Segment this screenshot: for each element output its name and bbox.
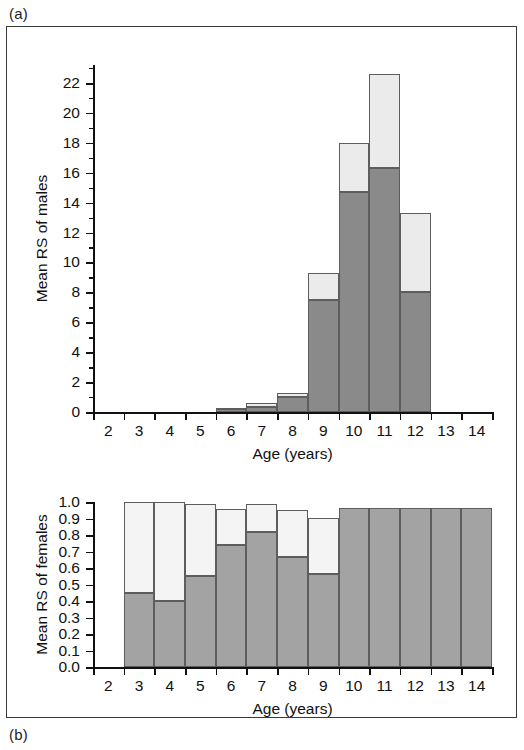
y-axis-line (93, 502, 95, 667)
x-axis-tick-label: 9 (307, 678, 339, 694)
x-axis-tick-label: 12 (399, 678, 431, 694)
x-axis-tick (339, 667, 341, 675)
y-axis-tick (86, 618, 93, 620)
x-axis-tick-label: 7 (246, 678, 278, 694)
bar-segment (216, 545, 247, 667)
x-axis-tick (400, 667, 402, 675)
bar-segment (216, 509, 247, 545)
x-axis-tick (185, 667, 187, 675)
x-axis-tick-label: 14 (461, 678, 493, 694)
x-axis-tick-label: 8 (277, 678, 309, 694)
figure-frame: 0246810121416182022234567891011121314Age… (6, 26, 517, 718)
x-axis-tick (461, 667, 463, 675)
bar-segment (308, 518, 339, 574)
x-axis-tick-label: 4 (154, 678, 186, 694)
bar-segment (308, 574, 339, 667)
bar-segment (431, 508, 462, 667)
bar-segment (124, 593, 155, 667)
figure-root: (a) 024681012141618202223456789101112131… (0, 0, 524, 750)
x-axis-title: Age (years) (93, 700, 492, 718)
bar-segment (154, 502, 185, 601)
y-axis-tick (86, 519, 93, 521)
x-axis-tick (369, 667, 371, 675)
y-axis-tick (86, 634, 93, 636)
y-axis-tick (86, 535, 93, 537)
x-axis-tick (492, 667, 494, 675)
x-axis-tick (431, 667, 433, 675)
bar-segment (124, 502, 155, 593)
x-axis-line (93, 667, 492, 669)
x-axis-tick (124, 667, 126, 675)
panel-b-label: (b) (9, 726, 28, 743)
y-axis-tick (86, 601, 93, 603)
x-axis-tick-label: 3 (123, 678, 155, 694)
y-axis-tick (86, 568, 93, 570)
bar-segment (461, 508, 492, 667)
y-axis-title: Mean RS of females (33, 502, 51, 667)
bar-segment (185, 576, 216, 667)
y-axis-tick (86, 651, 93, 653)
chart-mean-rs-females: 0.00.10.20.30.40.50.60.70.80.91.02345678… (7, 27, 516, 717)
bar-segment (400, 508, 431, 667)
x-axis-tick-label: 13 (430, 678, 462, 694)
bar-segment (185, 504, 216, 577)
x-axis-tick (308, 667, 310, 675)
y-axis-tick (86, 585, 93, 587)
bar-segment (369, 508, 400, 667)
x-axis-tick-label: 6 (215, 678, 247, 694)
bar-segment (277, 510, 308, 557)
x-axis-tick-label: 10 (338, 678, 370, 694)
x-axis-tick (216, 667, 218, 675)
x-axis-tick-label: 11 (369, 678, 401, 694)
y-axis-tick (86, 502, 93, 504)
bar-segment (277, 557, 308, 667)
y-axis-tick (86, 667, 93, 669)
x-axis-tick-label: 2 (92, 678, 124, 694)
panel-a-label: (a) (9, 5, 28, 22)
x-axis-tick (246, 667, 248, 675)
bar-segment (246, 532, 277, 667)
x-axis-tick (154, 667, 156, 675)
x-axis-tick-label: 5 (184, 678, 216, 694)
x-axis-tick (93, 667, 95, 675)
y-axis-tick (86, 552, 93, 554)
bar-segment (154, 601, 185, 667)
bar-segment (246, 504, 277, 532)
x-axis-tick (277, 667, 279, 675)
bar-segment (339, 508, 370, 667)
